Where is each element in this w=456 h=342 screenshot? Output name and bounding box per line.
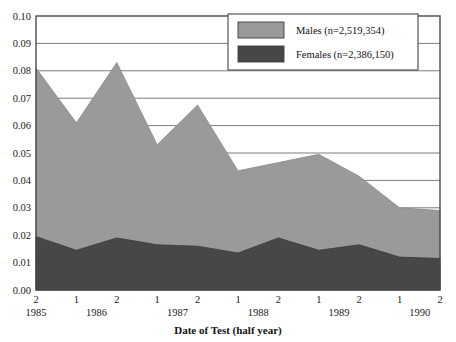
x-tick-label: 2 (114, 294, 119, 305)
y-tick-label: 0.06 (13, 120, 31, 131)
y-tick-label: 0.08 (13, 65, 31, 76)
x-year-label: 1989 (329, 307, 350, 318)
legend-label-males: Males (n=2,519,354) (296, 25, 385, 37)
x-year-label: 1990 (409, 307, 430, 318)
x-year-label: 1985 (26, 307, 47, 318)
x-tick-label: 2 (276, 294, 281, 305)
y-tick-label: 0.04 (13, 175, 32, 186)
x-tick-label: 1 (74, 294, 79, 305)
area-chart: 0.000.010.020.030.040.050.060.070.080.09… (0, 0, 456, 342)
y-tick-label: 0.00 (13, 285, 31, 296)
x-year-label: 1988 (248, 307, 269, 318)
y-tick-label: 0.10 (13, 11, 31, 22)
x-tick-label: 2 (437, 294, 442, 305)
y-tick-label: 0.03 (13, 202, 31, 213)
x-tick-label: 1 (397, 294, 402, 305)
y-tick-label: 0.07 (13, 93, 31, 104)
legend: Males (n=2,519,354) Females (n=2,386,150… (228, 14, 418, 70)
x-year-label: 1986 (86, 307, 107, 318)
x-tick-label: 1 (316, 294, 321, 305)
y-tick-label: 0.05 (13, 148, 31, 159)
legend-swatch-males (238, 22, 284, 38)
x-year-label: 1987 (167, 307, 188, 318)
chart-container: 0.000.010.020.030.040.050.060.070.080.09… (0, 0, 456, 342)
x-tick-label: 2 (195, 294, 200, 305)
x-tick-label: 1 (235, 294, 240, 305)
x-tick-label: 2 (33, 294, 38, 305)
legend-label-females: Females (n=2,386,150) (296, 49, 394, 61)
x-tick-label: 2 (357, 294, 362, 305)
x-tick-label: 1 (155, 294, 160, 305)
legend-swatch-females (238, 46, 284, 62)
x-axis-title: Date of Test (half year) (174, 324, 282, 337)
y-tick-label: 0.09 (13, 38, 31, 49)
y-tick-label: 0.01 (13, 257, 31, 268)
y-tick-label: 0.02 (13, 230, 31, 241)
